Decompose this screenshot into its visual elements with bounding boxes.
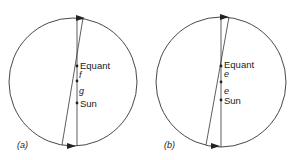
slanted-line-b (206, 17, 229, 145)
f-label-a: f (79, 70, 83, 80)
panel-a: Equant f g Sun (a) (9, 15, 137, 150)
caption-b: (b) (164, 140, 175, 150)
equant-dot-b (220, 65, 223, 68)
equant-label-a: Equant (80, 60, 110, 71)
sun-label-a: Sun (80, 98, 97, 109)
sun-dot-b (220, 99, 223, 102)
equant-dot-a (76, 65, 79, 68)
top-arrow-a-icon (76, 15, 85, 21)
f-dot-a (76, 80, 79, 83)
equant-diagram: Equant f g Sun (a) Equant e e Sun (b) (0, 0, 294, 160)
e-dot-b (220, 81, 223, 84)
sun-dot-a (76, 102, 79, 105)
bottom-arrow-a-icon (67, 143, 76, 149)
sun-label-b: Sun (224, 95, 241, 106)
panel-b: Equant e e Sun (b) (156, 14, 286, 150)
bottom-arrow-b-icon (211, 143, 220, 149)
e-label-upper-b: e (224, 69, 229, 79)
g-label-a: g (79, 86, 84, 96)
top-arrow-b-icon (220, 14, 229, 20)
slanted-line-a (62, 18, 83, 145)
orbit-circle-a (9, 18, 137, 146)
caption-a: (a) (17, 140, 28, 150)
